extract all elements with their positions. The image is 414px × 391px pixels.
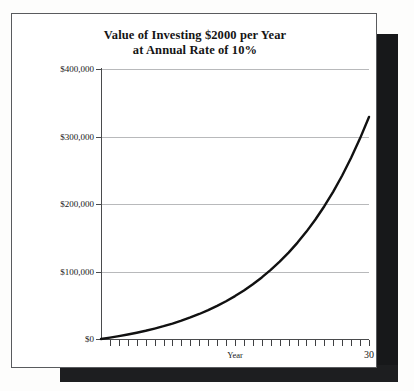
y-axis-tick-label: $0 — [85, 334, 94, 344]
figure-panel: Value of Investing $2000 per Year at Ann… — [11, 13, 377, 368]
x-axis-title: Year — [205, 350, 265, 360]
x-axis-tick — [369, 340, 370, 346]
chart-title-line-2: at Annual Rate of 10% — [12, 43, 378, 58]
scanned-figure-page: Value of Investing $2000 per Year at Ann… — [0, 0, 414, 391]
chart-title: Value of Investing $2000 per Year at Ann… — [12, 28, 378, 58]
y-axis-tick-label: $100,000 — [60, 267, 94, 277]
y-axis-tick-label: $200,000 — [60, 199, 94, 209]
x-axis-end-tick-label: 30 — [349, 349, 389, 360]
y-axis-tick-label: $300,000 — [60, 132, 94, 142]
chart-title-line-1: Value of Investing $2000 per Year — [12, 28, 378, 43]
data-series-curve — [101, 69, 369, 341]
plot-area: $0$100,000$200,000$300,000$400,000 Year … — [101, 69, 369, 339]
page-drop-shadow-right — [377, 34, 398, 379]
y-axis-tick-label: $400,000 — [60, 64, 94, 74]
